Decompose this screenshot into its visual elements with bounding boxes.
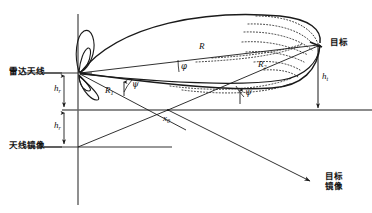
angle-psi-left-label: ψ [132, 80, 139, 89]
height-hr-upper-label: hr [54, 84, 61, 94]
diagram-canvas [0, 0, 372, 213]
reflection-point-label: x0 [163, 114, 170, 124]
height-hr-upper-subscript: r [59, 88, 61, 94]
reflection-point-marker [167, 109, 169, 111]
path-antenna-image-to-target-image [78, 110, 310, 181]
target-image-label-line2: 镜像 [325, 182, 343, 192]
range-R2-subscript: 2 [264, 64, 267, 70]
height-hr-lower-subscript: r [59, 125, 61, 131]
antenna-pattern-lobes [76, 30, 98, 100]
antenna-image-label: 天线镜像 [9, 141, 45, 150]
range-R1-subscript: 1 [111, 90, 114, 96]
angle-arc-psi-left [124, 80, 132, 92]
radar-antenna-label: 雷达天线 [9, 67, 45, 76]
target-image-label: 目标 镜像 [325, 172, 343, 192]
range-R-label: R [199, 42, 205, 51]
height-ht-subscript: t [327, 76, 329, 82]
height-ht-label: ht [322, 72, 328, 82]
reflection-point-subscript: 0 [167, 118, 170, 124]
angle-phi-label: φ [181, 62, 187, 71]
height-hr-lower-label: hr [54, 121, 61, 131]
angle-psi-right-label: ψ [245, 88, 252, 97]
radar-multipath-diagram: 雷达天线 天线镜像 目标 目标 镜像 R R1 R2 φ ψ ψ hr hr h… [0, 0, 372, 213]
range-R2-label: R2 [258, 60, 267, 70]
target-label: 目标 [330, 38, 348, 47]
secondary-beam-envelope [80, 46, 320, 83]
range-R1-label: R1 [105, 86, 114, 96]
